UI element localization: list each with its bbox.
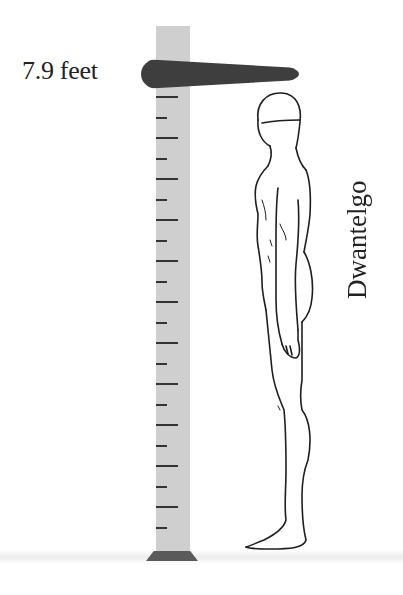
character-name-label: Dwantelgo: [332, 180, 382, 300]
height-comparison-chart: 7.9 feet: [0, 0, 403, 595]
